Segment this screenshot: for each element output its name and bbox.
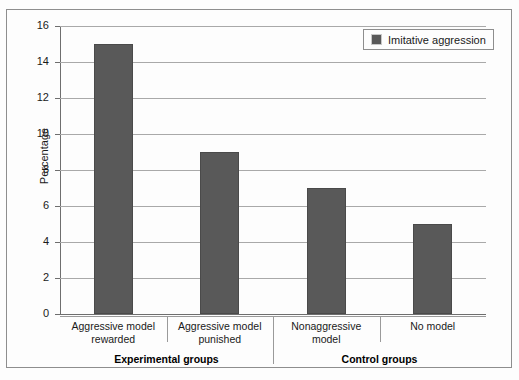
y-tick-label: 12 (15, 92, 49, 103)
filled-square-icon (371, 34, 382, 45)
x-category-label: Aggressive modelpunished (167, 320, 274, 345)
x-category-label: Aggressive modelrewarded (60, 320, 167, 345)
category-label-line: punished (198, 333, 241, 345)
y-tick-mark (55, 170, 60, 171)
bar (94, 44, 133, 314)
category-label-line: Aggressive model (72, 320, 155, 332)
y-tick-mark (55, 206, 60, 207)
y-tick-label: 6 (15, 200, 49, 211)
y-tick-label: 16 (15, 20, 49, 31)
y-tick-mark (55, 62, 60, 63)
y-tick-mark (55, 278, 60, 279)
y-tick-label: 10 (15, 128, 49, 139)
bar (307, 188, 346, 314)
y-tick-label: 4 (15, 236, 49, 247)
legend-entry-label: Imitative aggression (388, 34, 486, 46)
y-axis-title: Percentage (38, 106, 50, 206)
y-tick-mark (55, 134, 60, 135)
bar (200, 152, 239, 314)
category-label-line: Aggressive model (178, 320, 261, 332)
gridline (60, 26, 486, 27)
x-group-label: Experimental groups (60, 353, 273, 365)
x-group-label: Control groups (273, 353, 486, 365)
category-label-line: No model (410, 320, 455, 332)
bar (413, 224, 452, 314)
y-tick-mark (55, 242, 60, 243)
y-tick-mark (55, 98, 60, 99)
category-label-line: rewarded (91, 333, 135, 345)
category-label-line: Nonaggressive (291, 320, 361, 332)
x-axis-baseline (60, 314, 486, 315)
chart-figure: Percentage 0246810121416 Aggressive mode… (0, 0, 519, 380)
y-tick-mark (55, 26, 60, 27)
y-tick-label: 2 (15, 272, 49, 283)
x-axis-footer-rule (60, 316, 486, 317)
x-category-label: Nonaggressivemodel (273, 320, 380, 345)
y-tick-mark (55, 314, 60, 315)
category-label-line: model (312, 333, 341, 345)
x-category-label: No model (380, 320, 487, 333)
chart-legend: Imitative aggression (363, 29, 494, 50)
y-tick-label: 8 (15, 164, 49, 175)
y-tick-label: 14 (15, 56, 49, 67)
y-tick-label: 0 (15, 308, 49, 319)
